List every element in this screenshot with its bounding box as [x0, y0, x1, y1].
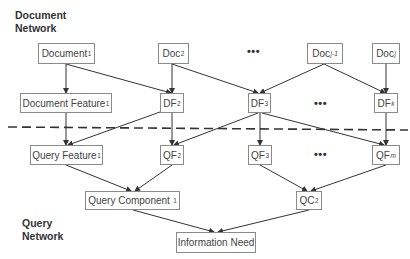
node-df-3: DF3 [248, 93, 271, 113]
edge-qf3-to-qc2 [260, 165, 307, 191]
node-qc-2: QC2 [296, 191, 322, 210]
network-divider-line [8, 127, 408, 130]
node-subscript: m [390, 152, 395, 159]
node-label: QF [251, 150, 265, 161]
node-label: DF [377, 98, 390, 109]
node-df-2: DF2 [160, 93, 184, 113]
node-label: Query Component [88, 195, 173, 206]
node-label: QF [376, 150, 390, 161]
node-qf-2: QF2 [160, 145, 184, 165]
ellipsis-df: ••• [314, 97, 327, 109]
ellipsis-docs: ••• [247, 45, 260, 57]
node-label: Doc [376, 48, 394, 59]
node-subscript: 2 [177, 100, 181, 107]
node-qf-3: QF3 [248, 145, 272, 165]
edge-df3-to-qf2 [174, 113, 258, 145]
node-query-feature-1: Query Feature1 [30, 145, 103, 165]
node-subscript: 1 [88, 50, 92, 57]
edge-docj1-to-df3 [260, 64, 324, 93]
node-label: DF [251, 98, 264, 109]
node-df-k: DFk [374, 93, 398, 113]
node-subscript: 2 [181, 50, 185, 57]
edge-docj1-to-dfk [324, 64, 385, 93]
node-label: Doc [163, 48, 181, 59]
node-document-feature-1: Document Feature1 [20, 93, 112, 113]
node-subscript: 2 [315, 197, 319, 204]
node-doc-j-minus-1: Docj-1 [307, 43, 343, 64]
edge-qf2-to-qc1 [135, 165, 172, 191]
edge-doc2-to-df3 [172, 64, 258, 93]
node-information-need: Information Need [176, 232, 256, 253]
edge-qc2-to-info [218, 210, 309, 232]
edge-qf1-to-qc1 [66, 165, 131, 191]
node-label: QF [163, 150, 177, 161]
node-doc-j: Docj [372, 43, 400, 64]
edge-qfm-to-qc2 [311, 165, 386, 191]
node-subscript: 3 [265, 100, 269, 107]
node-subscript: k [391, 100, 394, 107]
node-document-1: Document1 [38, 43, 95, 64]
edge-qc1-to-info [133, 210, 214, 232]
node-subscript: 1 [173, 197, 177, 204]
node-subscript: 3 [265, 152, 269, 159]
node-label: DF [163, 98, 176, 109]
node-subscript: 1 [97, 152, 101, 159]
node-subscript: 1 [106, 100, 110, 107]
node-label: Doc [312, 48, 330, 59]
ellipsis-qf: ••• [314, 148, 327, 160]
node-qf-m: QFm [372, 145, 400, 165]
edges-layer [0, 0, 410, 259]
node-subscript: j-1 [331, 50, 338, 57]
node-query-component-1: Query Component 1 [85, 191, 180, 210]
node-subscript: j [394, 50, 395, 57]
node-label: QC [299, 195, 314, 206]
node-subscript: 2 [177, 152, 181, 159]
node-label: Information Need [178, 237, 255, 248]
node-doc-2: Doc2 [158, 43, 189, 64]
node-label: Query Feature [32, 150, 96, 161]
node-label: Document [42, 48, 88, 59]
node-label: Document Feature [23, 98, 106, 109]
edge-document1-to-df2 [66, 64, 171, 93]
